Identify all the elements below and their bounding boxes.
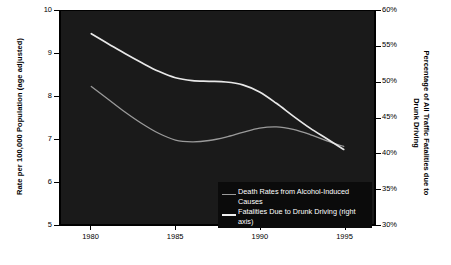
legend-label-death-rates: Death Rates from Alcohol-Induced Causes <box>238 187 368 206</box>
y-axis-right-tick-45pct: 45% <box>382 113 412 121</box>
y-axis-right-tickmark <box>375 153 381 154</box>
y-axis-right-title: Percentage of All Traffic Fatalities due… <box>411 8 431 238</box>
y-axis-right-title-line1: Percentage of All Traffic Fatalities due… <box>422 51 431 196</box>
series-line-drunk-driving <box>91 34 343 150</box>
y-axis-right-tick-55pct: 55% <box>382 41 412 49</box>
x-axis-tick-1985: 1985 <box>155 232 195 241</box>
y-axis-left-tick-5: 5 <box>26 221 52 229</box>
x-axis-tick-1995: 1995 <box>325 232 365 241</box>
chart-legend: Death Rates from Alcohol-Induced Causes … <box>218 182 372 228</box>
y-axis-right-tickmark <box>375 10 381 11</box>
y-axis-left-tick-9: 9 <box>26 49 52 57</box>
y-axis-left-tickmark <box>54 225 60 226</box>
legend-swatch-drunk-driving <box>222 210 236 220</box>
y-axis-left-tick-7: 7 <box>26 135 52 143</box>
y-axis-left-tick-6: 6 <box>26 178 52 186</box>
y-axis-left-tick-10: 10 <box>26 6 52 14</box>
x-axis-tick-1980: 1980 <box>70 232 110 241</box>
legend-item-death-rates: Death Rates from Alcohol-Induced Causes <box>222 187 368 206</box>
y-axis-right-tickmark <box>375 225 381 226</box>
y-axis-left-tick-8: 8 <box>26 92 52 100</box>
y-axis-right-tick-30pct: 30% <box>382 221 412 229</box>
chart-container: Rate per 100,000 Population (age adjuste… <box>0 0 451 265</box>
y-axis-right-tick-40pct: 40% <box>382 149 412 157</box>
y-axis-right-tick-50pct: 50% <box>382 77 412 85</box>
x-axis-tickmark <box>175 225 176 230</box>
y-axis-right-tickmark <box>375 46 381 47</box>
y-axis-right-tickmark <box>375 189 381 190</box>
x-axis-tick-1990: 1990 <box>240 232 280 241</box>
x-axis-tickmark <box>90 225 91 230</box>
series-line-death-rates <box>91 86 343 146</box>
legend-item-drunk-driving: Fatalities Due to Drunk Driving (right a… <box>222 207 368 226</box>
y-axis-left-ticklabels: 5678910 <box>22 0 52 265</box>
y-axis-right-tick-35pct: 35% <box>382 185 412 193</box>
y-axis-right-tickmark <box>375 118 381 119</box>
y-axis-right-tickmark <box>375 82 381 83</box>
legend-swatch-death-rates <box>222 190 236 200</box>
y-axis-right-ticklabels: 30%35%40%45%50%55%60% <box>382 0 414 265</box>
y-axis-right-tick-60pct: 60% <box>382 6 412 14</box>
legend-label-drunk-driving: Fatalities Due to Drunk Driving (right a… <box>238 207 368 226</box>
